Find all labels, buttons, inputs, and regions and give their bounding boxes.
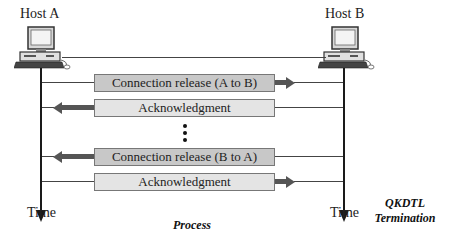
desktop-computer-icon xyxy=(318,26,376,70)
ellipsis-dot xyxy=(183,124,187,128)
message-line xyxy=(294,181,343,182)
host-b-label: Host B xyxy=(325,6,364,22)
message-line xyxy=(42,82,94,83)
time-label-host-a: Time xyxy=(27,205,56,221)
host-b-timeline xyxy=(343,68,345,212)
message-connection-release-a-to-b: Connection release (A to B) xyxy=(94,74,275,92)
host-a-label: Host A xyxy=(20,6,59,22)
arrow-right-icon xyxy=(286,176,295,188)
network-link-line xyxy=(62,57,326,58)
host-a-timeline xyxy=(40,68,42,212)
message-line xyxy=(275,156,343,157)
message-connection-release-b-to-a: Connection release (B to A) xyxy=(94,148,275,166)
message-acknowledgment: Acknowledgment xyxy=(94,99,275,117)
desktop-computer-icon xyxy=(14,26,72,70)
message-line xyxy=(294,82,343,83)
arrow-right-icon xyxy=(286,77,295,89)
message-acknowledgment: Acknowledgment xyxy=(94,173,275,191)
message-line xyxy=(42,181,94,182)
arrow-shaft xyxy=(61,105,94,110)
message-line xyxy=(275,107,343,108)
ellipsis-dot xyxy=(183,138,187,142)
qkdtl-caption-line1: QKDTL xyxy=(370,196,440,211)
ellipsis-dot xyxy=(183,131,187,135)
time-label-host-b: Time xyxy=(330,205,359,221)
arrow-shaft xyxy=(61,154,94,159)
process-caption: Process xyxy=(160,218,224,233)
qkdtl-caption-line2: Termination xyxy=(370,211,440,226)
